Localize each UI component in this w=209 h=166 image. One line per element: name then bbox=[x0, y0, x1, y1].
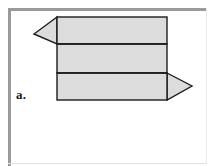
bottom-segment bbox=[57, 73, 167, 100]
top-segment bbox=[57, 17, 167, 44]
figure-label: a. bbox=[16, 88, 26, 102]
middle-segment bbox=[57, 44, 167, 73]
right-arrowhead-icon bbox=[167, 73, 192, 100]
left-arrowhead-icon bbox=[34, 17, 57, 44]
segmented-arrow-diagram bbox=[0, 0, 209, 166]
figure-panel: a. bbox=[0, 0, 209, 166]
